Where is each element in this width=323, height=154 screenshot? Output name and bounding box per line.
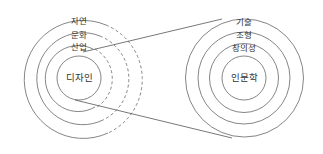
left-ring-nature-dashed: [106, 25, 142, 133]
connector-lines: [75, 19, 232, 138]
concentric-circles-diagram: 자연 문화 산업 디자인 기술 조형 창의성 인문학: [0, 0, 323, 154]
label-creativity: 창의성: [232, 43, 256, 53]
label-nature: 자연: [71, 16, 87, 26]
label-form: 조형: [236, 30, 252, 40]
label-industry: 산업: [71, 42, 87, 52]
label-design: 디자인: [66, 72, 93, 83]
left-ring-industry-dashed: [95, 49, 112, 107]
label-humanities: 인문학: [231, 72, 258, 83]
label-culture: 문화: [71, 30, 87, 40]
connector-line-bottom: [75, 100, 232, 138]
label-technology: 기술: [236, 17, 252, 27]
